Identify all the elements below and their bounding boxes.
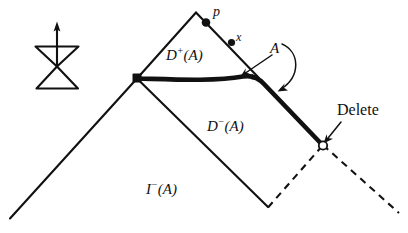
label-region-d-plus: D+(A) xyxy=(166,46,203,63)
bowtie-up-arrow-icon xyxy=(36,22,79,89)
delete-pointer-arrow xyxy=(324,122,342,144)
label-region-d-minus: D−(A) xyxy=(207,117,244,134)
label-A-curved-arrow xyxy=(278,44,296,92)
dashed-lines xyxy=(268,145,399,213)
label-point-p: p xyxy=(213,5,220,19)
diagram-canvas: p x D+(A) A D−(A) I−(A) Delete xyxy=(0,0,408,233)
label-arc-A: A xyxy=(270,41,279,56)
label-region-i-minus: I−(A) xyxy=(146,180,177,197)
point-p-dot xyxy=(202,18,211,27)
i-minus-arg: (A) xyxy=(158,181,177,197)
d-plus-letter: D xyxy=(166,47,177,63)
label-A-pointer-arrow xyxy=(241,55,273,77)
label-delete: Delete xyxy=(337,102,379,118)
label-point-x: x xyxy=(236,31,241,43)
d-plus-arg: (A) xyxy=(184,47,203,63)
d-minus-arg: (A) xyxy=(225,118,244,134)
d-plus-superscript: + xyxy=(177,45,184,56)
d-minus-letter: D xyxy=(207,118,218,134)
point-x-dot xyxy=(228,39,235,46)
delete-node xyxy=(319,141,327,149)
i-minus-superscript: − xyxy=(151,179,158,190)
d-minus-superscript: − xyxy=(218,116,225,127)
junction-node xyxy=(133,74,142,83)
